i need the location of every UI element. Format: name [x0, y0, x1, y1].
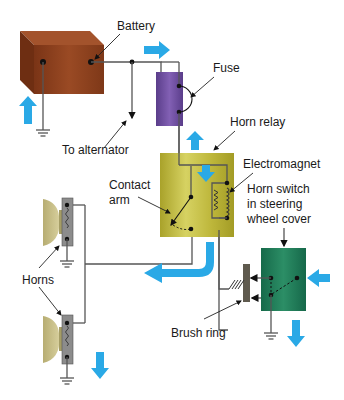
horn-upper	[43, 198, 74, 267]
label-to-alternator: To alternator	[62, 143, 129, 157]
flow-arrow-left-icon	[307, 269, 330, 287]
brush-ring	[219, 230, 250, 302]
flow-arrow-up-icon	[186, 131, 204, 150]
label-fuse: Fuse	[213, 61, 240, 75]
label-horn-switch-line2: in steering	[247, 197, 302, 211]
flow-arrow-right-icon	[144, 41, 170, 59]
label-horn-relay: Horn relay	[230, 115, 285, 129]
label-contact-arm-line1: Contact	[109, 178, 151, 192]
horn-circuit-diagram: Battery To alternator Fuse Horn relay El…	[0, 0, 344, 400]
horn-lower	[43, 315, 74, 384]
label-brush-ring: Brush ring	[171, 326, 226, 340]
flow-arrow-down-icon	[91, 352, 109, 379]
flow-arrow-up-icon	[19, 96, 37, 124]
label-contact-arm-line2: arm	[109, 193, 130, 207]
label-battery: Battery	[117, 19, 155, 33]
label-electromagnet: Electromagnet	[243, 157, 321, 171]
flow-arrow-curved-left-icon	[144, 242, 214, 283]
label-horn-switch-line3: wheel cover	[246, 212, 311, 226]
label-horn-switch-line1: Horn switch	[247, 182, 310, 196]
horn-relay	[160, 113, 234, 237]
flow-arrow-down-icon	[287, 320, 305, 347]
label-horns: Horns	[22, 273, 54, 287]
